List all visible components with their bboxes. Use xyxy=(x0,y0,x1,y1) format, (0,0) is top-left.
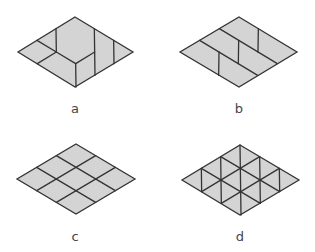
rhombus-tiling-diagram xyxy=(0,0,315,252)
figure-d xyxy=(182,145,299,215)
figure-label-b: b xyxy=(229,102,249,115)
figure-label-a: a xyxy=(65,102,85,115)
figure-label-d: d xyxy=(230,230,250,243)
figure-c xyxy=(17,144,135,214)
tiling-edge xyxy=(221,157,222,204)
rhombus-outline xyxy=(17,144,135,214)
figure-b xyxy=(180,17,297,87)
tiling-edge xyxy=(260,157,261,204)
figure-a xyxy=(18,17,133,87)
figure-label-c: c xyxy=(65,230,85,243)
tiling-edge xyxy=(94,29,95,76)
